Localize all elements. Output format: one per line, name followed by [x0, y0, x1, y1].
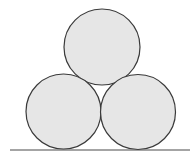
circle-top — [64, 9, 140, 85]
circle-bottom-left — [26, 74, 101, 149]
diagram-canvas — [0, 0, 195, 161]
circle-bottom-right — [101, 75, 176, 150]
stacked-circles-diagram — [0, 0, 195, 161]
